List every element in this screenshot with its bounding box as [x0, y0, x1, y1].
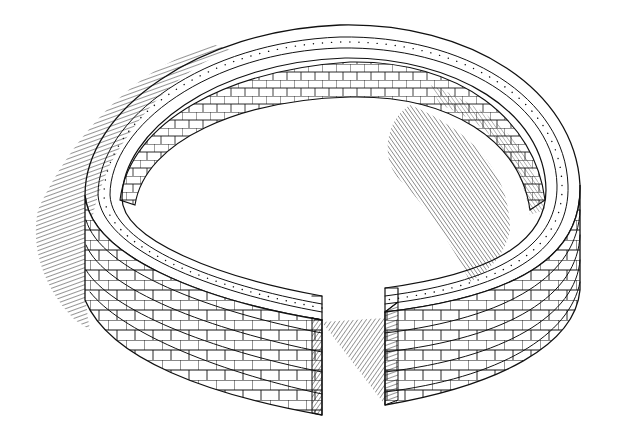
right-wall-end-face: [385, 302, 398, 405]
brick-ring-drawing: [0, 0, 637, 426]
left-end-cap: [312, 296, 322, 320]
gap-shadow-hatching: [322, 318, 385, 405]
illustration-canvas: circular brick wall with a gap, pen-and-…: [0, 0, 637, 426]
